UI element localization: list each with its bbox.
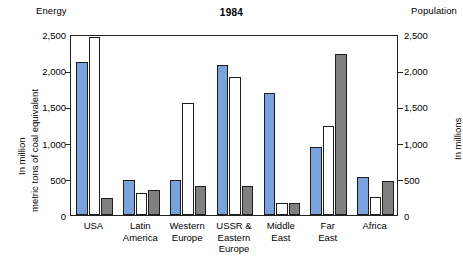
tick-mark-left [65,108,71,109]
tick-mark-right [397,144,403,145]
tick-mark-right [397,72,403,73]
category-label-line: Africa [343,220,406,232]
bar-gray-far-east [335,54,347,215]
bar-gray-africa [382,181,394,215]
bar-gray-latin-america [148,190,160,215]
left-tick-label: 500 [30,175,66,186]
left-tick-label: 1,500 [30,102,66,113]
right-tick-label: 1,500 [404,102,444,113]
category-label-line: Europe [203,243,266,255]
category-label-line: East [296,232,359,244]
bar-white-western-europe [182,103,194,215]
bar-gray-usa [101,198,113,215]
bar-white-far-east [323,126,335,215]
bar-white-usa [89,37,101,215]
bar-blue-africa [357,177,369,215]
tick-mark-left [65,144,71,145]
plot-area [70,35,398,216]
chart-root: Energy Population 1984 In million metric… [0,0,463,274]
bar-blue-western-europe [170,180,182,215]
bar-gray-ussr-eastern-europe [242,186,254,215]
right-tick-label: 2,000 [404,66,444,77]
bar-white-ussr-eastern-europe [229,77,241,215]
right-axis-label: In millions [452,118,463,160]
tick-mark-right [397,108,403,109]
chart-title: 1984 [0,7,463,18]
category-label: Africa [343,220,406,232]
right-tick-label: 500 [404,175,444,186]
tick-mark-left [65,72,71,73]
right-tick-label: 2,500 [404,30,444,41]
bar-white-latin-america [136,193,148,215]
bar-gray-western-europe [195,186,207,215]
bar-blue-ussr-eastern-europe [217,65,229,215]
bar-blue-far-east [310,147,322,215]
bar-gray-middle-east [289,203,301,215]
tick-mark-right [397,180,403,181]
left-tick-label: 2,000 [30,66,66,77]
bar-blue-middle-east [264,93,276,215]
right-tick-label: 1,000 [404,139,444,150]
left-tick-label: 0 [30,211,66,222]
bar-blue-latin-america [123,180,135,215]
category-axis-labels: USALatinAmericaWesternEuropeUSSR &Easter… [70,220,398,270]
bar-white-africa [370,197,382,215]
left-tick-label: 2,500 [30,30,66,41]
bar-white-middle-east [276,203,288,215]
left-axis-label-line1: In million [16,138,27,176]
tick-mark-left [65,180,71,181]
left-tick-label: 1,000 [30,139,66,150]
right-tick-label: 0 [404,211,444,222]
bar-blue-usa [76,62,88,215]
